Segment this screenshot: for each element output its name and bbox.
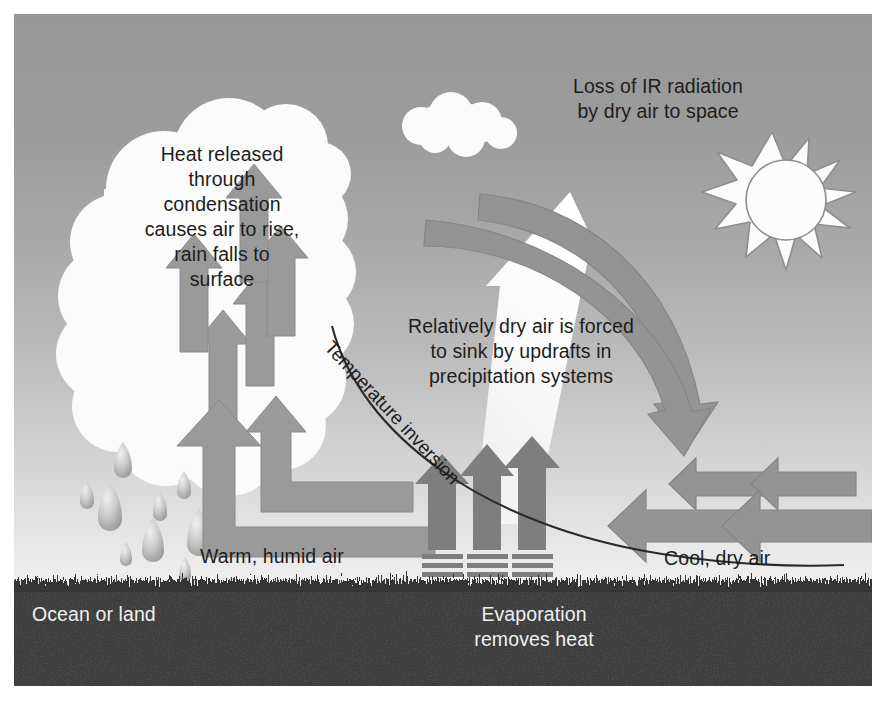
label-ocean-or-land: Ocean or land (32, 602, 232, 627)
cloud-icon (402, 92, 517, 157)
diagram-canvas: Heat released through condensation cause… (14, 14, 872, 686)
label-heat-released: Heat released through condensation cause… (106, 142, 338, 292)
label-dry-air-sinks: Relatively dry air is forced to sink by … (396, 314, 646, 389)
label-cool-dry-air: Cool, dry air (664, 546, 824, 571)
label-evaporation: Evaporation removes heat (434, 602, 634, 652)
label-ir-loss: Loss of IR radiation by dry air to space (532, 74, 784, 124)
sun-icon (702, 132, 856, 270)
label-warm-humid-air: Warm, humid air (200, 544, 380, 569)
